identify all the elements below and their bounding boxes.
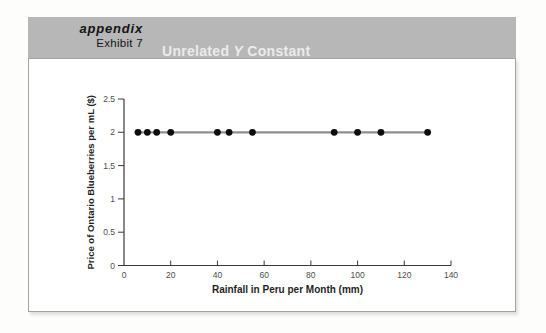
y-axis-title: Price of Ontario Blueberries per mL ($) <box>85 95 96 270</box>
y-tick-label: 1.5 <box>103 161 115 171</box>
x-tick-label: 20 <box>166 270 176 280</box>
x-tick-label: 40 <box>213 270 223 280</box>
y-tick-label: 1 <box>110 194 115 204</box>
exhibit-label-block: appendix Exhibit 7 <box>28 22 143 50</box>
data-point <box>331 129 338 136</box>
exhibit-title-pre: Unrelated <box>162 43 229 59</box>
data-point <box>424 129 431 136</box>
exhibit-header-bar: appendix Exhibit 7 Unrelated Y Constant <box>28 17 516 58</box>
data-point <box>135 129 142 136</box>
data-point <box>354 129 361 136</box>
x-tick-label: 0 <box>122 270 127 280</box>
y-tick-label: 2 <box>110 127 115 137</box>
data-point <box>214 129 221 136</box>
data-point <box>378 129 385 136</box>
y-tick-label: 0.5 <box>103 227 115 237</box>
scatter-chart: 02040608010012014000.511.522.5Rainfall i… <box>29 59 515 311</box>
x-tick-label: 140 <box>444 270 458 280</box>
scanned-page: appendix Exhibit 7 Unrelated Y Constant … <box>0 0 546 333</box>
exhibit-number: Exhibit 7 <box>28 37 143 50</box>
exhibit-title: Unrelated Y Constant <box>162 43 310 59</box>
data-point <box>226 129 233 136</box>
data-point <box>153 129 160 136</box>
exhibit-title-variable: Y <box>233 43 243 59</box>
y-tick-label: 0 <box>110 261 115 271</box>
exhibit-title-post: Constant <box>247 43 310 59</box>
x-axis-title: Rainfall in Peru per Month (mm) <box>212 284 363 295</box>
y-tick-label: 2.5 <box>103 94 115 104</box>
data-point <box>167 129 174 136</box>
data-point <box>144 129 151 136</box>
x-tick-label: 80 <box>306 270 316 280</box>
chart-panel: 02040608010012014000.511.522.5Rainfall i… <box>28 58 516 312</box>
appendix-kicker: appendix <box>28 22 143 36</box>
x-tick-label: 60 <box>259 270 269 280</box>
x-tick-label: 120 <box>397 270 411 280</box>
data-point <box>249 129 256 136</box>
x-tick-label: 100 <box>350 270 364 280</box>
